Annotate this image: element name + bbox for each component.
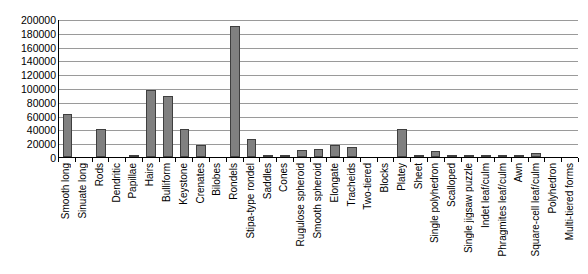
x-tick bbox=[410, 158, 411, 162]
x-axis-category-label: Papillae bbox=[128, 163, 138, 199]
y-tick-label: 60000 bbox=[27, 111, 56, 122]
y-tick-label: 180000 bbox=[21, 29, 56, 40]
bar[interactable] bbox=[447, 155, 457, 157]
x-axis-labels: Smooth longSinuate longRodsDendriticPapi… bbox=[58, 163, 578, 273]
bar[interactable] bbox=[247, 139, 257, 157]
x-label-slot: Platey bbox=[393, 163, 410, 273]
bar[interactable] bbox=[129, 155, 139, 157]
bar-slot bbox=[126, 20, 143, 157]
x-axis-category-label: Indet leaf/culm bbox=[481, 163, 491, 228]
bar[interactable] bbox=[464, 155, 474, 157]
x-tick bbox=[360, 158, 361, 162]
bar-slot bbox=[461, 20, 478, 157]
x-axis-category-label: Scalloped bbox=[447, 163, 457, 207]
x-axis-category-label: Stipa-type rondel bbox=[246, 163, 256, 239]
x-axis-category-label: Blocks bbox=[380, 163, 390, 192]
x-label-slot: Elongate bbox=[326, 163, 343, 273]
x-label-slot: Stipa-type rondel bbox=[243, 163, 260, 273]
x-axis-ticks bbox=[58, 158, 578, 162]
bar[interactable] bbox=[63, 114, 73, 157]
x-label-slot: Smooth spheroid bbox=[310, 163, 327, 273]
x-label-slot: Hairs bbox=[142, 163, 159, 273]
x-tick bbox=[108, 158, 109, 162]
bar[interactable] bbox=[180, 129, 190, 157]
y-tick-label: 40000 bbox=[27, 125, 56, 136]
x-label-slot: Tracheids bbox=[343, 163, 360, 273]
bar-slot bbox=[143, 20, 160, 157]
bar[interactable] bbox=[514, 155, 524, 157]
x-axis-category-label: Rugulose spheroid bbox=[296, 163, 306, 246]
bar-slot bbox=[343, 20, 360, 157]
bar-slot bbox=[494, 20, 511, 157]
bar[interactable] bbox=[397, 129, 407, 157]
bar[interactable] bbox=[230, 26, 240, 157]
bar[interactable] bbox=[481, 155, 491, 157]
bar[interactable] bbox=[163, 96, 173, 157]
bar[interactable] bbox=[146, 90, 156, 157]
bar-slot bbox=[327, 20, 344, 157]
bar[interactable] bbox=[297, 150, 307, 157]
x-axis-category-label: Rods bbox=[95, 163, 105, 186]
bar[interactable] bbox=[330, 145, 340, 157]
plot-area bbox=[58, 20, 578, 158]
x-tick bbox=[58, 158, 59, 162]
bar[interactable] bbox=[531, 153, 541, 157]
x-tick bbox=[477, 158, 478, 162]
bar-slot bbox=[76, 20, 93, 157]
x-tick bbox=[142, 158, 143, 162]
bar[interactable] bbox=[347, 147, 357, 157]
bar[interactable] bbox=[414, 155, 424, 157]
bar-slot bbox=[92, 20, 109, 157]
x-label-slot: Rugulose spheroid bbox=[293, 163, 310, 273]
bar[interactable] bbox=[314, 149, 324, 157]
x-tick bbox=[75, 158, 76, 162]
x-tick bbox=[561, 158, 562, 162]
x-tick bbox=[461, 158, 462, 162]
x-tick bbox=[125, 158, 126, 162]
x-label-slot: Square-cell leaf/culm bbox=[528, 163, 545, 273]
x-label-slot: Rods bbox=[92, 163, 109, 273]
y-tick-label: 80000 bbox=[27, 98, 56, 109]
x-tick bbox=[427, 158, 428, 162]
x-tick bbox=[544, 158, 545, 162]
x-tick bbox=[276, 158, 277, 162]
x-tick bbox=[293, 158, 294, 162]
y-tick-label: 0 bbox=[50, 153, 56, 164]
y-tick-label: 140000 bbox=[21, 56, 56, 67]
bar[interactable] bbox=[96, 129, 106, 157]
x-label-slot: Saddles bbox=[259, 163, 276, 273]
bar[interactable] bbox=[263, 155, 273, 157]
bar-slot bbox=[176, 20, 193, 157]
x-axis-category-label: Smooth long bbox=[61, 163, 71, 219]
bar-slot bbox=[477, 20, 494, 157]
x-label-slot: Multi-tiered forms bbox=[561, 163, 578, 273]
x-label-slot: Indet leaf/culm bbox=[477, 163, 494, 273]
y-tick-label: 20000 bbox=[27, 139, 56, 150]
bar-slot bbox=[310, 20, 327, 157]
x-tick bbox=[444, 158, 445, 162]
x-tick bbox=[343, 158, 344, 162]
bar-slot bbox=[109, 20, 126, 157]
bar-slot bbox=[210, 20, 227, 157]
x-label-slot: Keystone bbox=[175, 163, 192, 273]
bar-slot bbox=[394, 20, 411, 157]
y-axis: 2000001800001600001400001200001000008000… bbox=[0, 0, 56, 274]
x-tick bbox=[259, 158, 260, 162]
bar-slot bbox=[444, 20, 461, 157]
bar-slot bbox=[561, 20, 578, 157]
x-label-slot: Sheet bbox=[410, 163, 427, 273]
bar-series bbox=[59, 20, 578, 157]
x-axis-category-label: Square-cell leaf/culm bbox=[531, 163, 541, 256]
bar-slot bbox=[293, 20, 310, 157]
x-label-slot: Single jigsaw puzzle bbox=[461, 163, 478, 273]
bar[interactable] bbox=[280, 155, 290, 157]
x-label-slot: Smooth long bbox=[58, 163, 75, 273]
bar-slot bbox=[260, 20, 277, 157]
y-tick-label: 120000 bbox=[21, 70, 56, 81]
bar[interactable] bbox=[431, 151, 441, 157]
x-label-slot: Bilobes bbox=[209, 163, 226, 273]
x-label-slot: Blocks bbox=[377, 163, 394, 273]
bar[interactable] bbox=[196, 145, 206, 157]
bar[interactable] bbox=[498, 155, 508, 157]
x-axis-category-label: Sheet bbox=[414, 163, 424, 189]
